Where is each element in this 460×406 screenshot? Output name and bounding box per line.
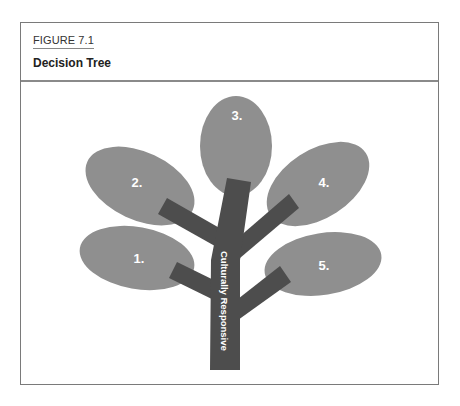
decision-tree-diagram: 1. 2. 3. 4. 5. Culturally Responsive [0, 0, 460, 406]
trunk-label: Culturally Responsive [219, 251, 230, 351]
leaf-5-label: 5. [319, 258, 330, 273]
leaf-3-label: 3. [232, 108, 243, 123]
leaf-1: 1. [74, 217, 199, 298]
leaf-1-label: 1. [134, 251, 145, 266]
leaf-5: 5. [260, 224, 386, 304]
leaf-2-label: 2. [132, 175, 143, 190]
leaf-4-label: 4. [319, 175, 330, 190]
